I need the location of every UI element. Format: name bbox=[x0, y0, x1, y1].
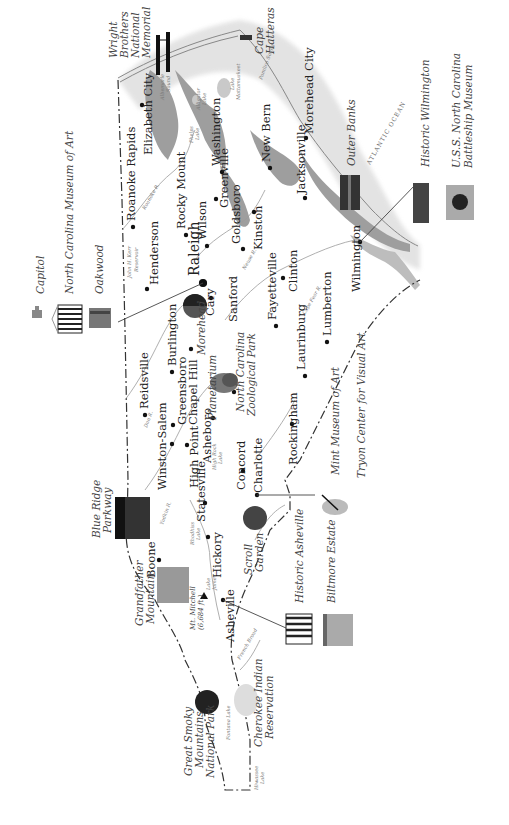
city-label: Statesville bbox=[194, 461, 208, 522]
capitol-icon bbox=[32, 306, 42, 318]
city-label: Burlington bbox=[165, 303, 179, 366]
city-label: Roanoke Rapids bbox=[124, 127, 138, 221]
scroll-garden-icon bbox=[243, 506, 267, 530]
city-label: Wilson bbox=[195, 200, 209, 240]
attraction-label: Mt. Mitchell bbox=[189, 586, 197, 631]
attraction-label: Parkway bbox=[101, 487, 113, 534]
city-label: Asheville bbox=[223, 589, 237, 643]
river-label: Yadkin R. bbox=[158, 500, 172, 525]
city-label: Wilmington bbox=[349, 224, 363, 292]
attraction-label: Biltmore Estate bbox=[325, 520, 337, 604]
attraction-label: Oakwood bbox=[93, 244, 105, 294]
city-label: Charlotte bbox=[251, 438, 265, 493]
blue-ridge-photo-icon bbox=[115, 497, 150, 539]
river-label: Dan R. bbox=[142, 410, 154, 429]
museum-columns-icon bbox=[52, 305, 82, 333]
lake-label: Lake bbox=[194, 128, 200, 141]
city-label: Rocky Mount bbox=[174, 151, 188, 229]
city-label: Hickory bbox=[210, 531, 224, 578]
attraction-label: Garden bbox=[253, 532, 265, 572]
attraction-label: Reservation bbox=[263, 675, 275, 740]
city-label: Concord bbox=[234, 440, 248, 490]
attraction-label: Historic Wilmington bbox=[419, 59, 431, 168]
city-label: Chapel Hill bbox=[186, 359, 200, 425]
attraction-label: Capitol bbox=[34, 256, 46, 294]
city-label: Fayetteville bbox=[265, 252, 279, 320]
city-label: Reidsville bbox=[137, 352, 151, 409]
city-label: Kinston bbox=[251, 205, 265, 250]
attraction-labels: Capitol North Carolina Museum of Art Oak… bbox=[34, 7, 474, 779]
attraction-label: Mint Museum of Art bbox=[329, 366, 341, 476]
city-label: Lumberton bbox=[320, 271, 334, 336]
attraction-label: Historic Asheville bbox=[293, 509, 305, 604]
river-label: Roanoke R. bbox=[140, 182, 160, 211]
city-label: Morehead City bbox=[302, 47, 316, 134]
grandfather-mountain-photo-icon bbox=[157, 567, 189, 603]
attraction-label: North Carolina Museum of Art bbox=[63, 130, 75, 295]
lake-label: Lake bbox=[201, 93, 207, 106]
mint-palette-icon bbox=[322, 495, 348, 515]
attraction-label: Zoological Park bbox=[245, 333, 257, 417]
attraction-label: Battleship Museum bbox=[462, 65, 474, 169]
attraction-label: Planetarium bbox=[206, 355, 218, 421]
lighthouse-icon bbox=[240, 35, 252, 40]
attraction-label: Outer Banks bbox=[345, 99, 357, 166]
city-label: Rockingham bbox=[286, 392, 300, 465]
lake-label: Fontana Lake bbox=[225, 705, 231, 741]
map-canvas: Raleigh Cary Roanoke Rapids Elizabeth Ci… bbox=[0, 0, 509, 825]
attraction-label: Mountain bbox=[144, 573, 156, 625]
attraction-label: Tryon Center for Visual Art bbox=[355, 332, 367, 478]
sound-label: Sound bbox=[165, 76, 171, 92]
biltmore-icon bbox=[323, 614, 353, 646]
ocean-label: ATLANTIC OCEAN bbox=[364, 100, 407, 167]
city-label: Goldsboro bbox=[229, 184, 243, 244]
lake-label: James bbox=[211, 574, 218, 591]
lake-label: Lake bbox=[217, 452, 223, 465]
attraction-label: Memorial bbox=[140, 7, 152, 59]
city-label: Boone bbox=[144, 541, 158, 578]
nc-map: Raleigh Cary Roanoke Rapids Elizabeth Ci… bbox=[0, 0, 509, 825]
lake-label: John H. Kerr bbox=[126, 245, 133, 279]
lake-label: Mattamuskeet bbox=[235, 62, 241, 101]
historic-asheville-columns-icon bbox=[286, 614, 312, 644]
lake-label: Reservoir bbox=[133, 247, 139, 273]
attraction-label: U.S.S. North Carolina bbox=[450, 53, 462, 168]
city-label: Jacksonville bbox=[294, 124, 308, 195]
attraction-label: (6,684 ft.) bbox=[197, 594, 205, 630]
city-label: Winston-Salem bbox=[155, 402, 169, 490]
wilmington-ship-icon bbox=[413, 183, 429, 223]
lake-label: Lake bbox=[195, 528, 201, 541]
city-label: Elizabeth City bbox=[141, 72, 155, 155]
attraction-label: Morehead bbox=[195, 300, 207, 356]
city-label: New Bern bbox=[259, 103, 273, 162]
city-label: Sanford bbox=[226, 275, 240, 322]
battleship-statue-icon bbox=[446, 185, 474, 220]
oakwood-house-icon bbox=[89, 308, 111, 328]
attraction-label: National Park bbox=[204, 705, 216, 779]
outer-banks-photo-icon bbox=[340, 175, 360, 210]
city-label: Henderson bbox=[147, 220, 161, 285]
city-label: Clinton bbox=[286, 249, 300, 292]
river-label: French Broad bbox=[235, 627, 258, 661]
lake-label: Lake bbox=[259, 772, 265, 785]
